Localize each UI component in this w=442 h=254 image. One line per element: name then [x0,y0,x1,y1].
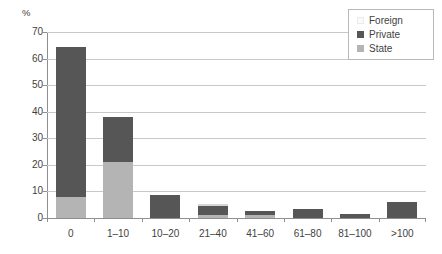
y-axis-tick-mark [43,218,47,219]
chart-legend: ForeignPrivateState [348,9,434,60]
x-axis-tick-label: 61–80 [294,228,322,239]
x-axis-tick-mark [425,218,426,222]
gridline [47,112,426,113]
y-axis-tick-mark [43,165,47,166]
legend-swatch-icon [357,45,364,52]
x-axis-tick-mark [284,218,285,222]
y-axis-tick-mark [43,112,47,113]
legend-item[interactable]: State [349,41,433,55]
legend-item-label: Foreign [369,15,403,26]
bar [103,117,133,218]
legend-item-label: Private [369,29,400,40]
x-axis-tick-label: 81–100 [338,228,371,239]
x-axis-tick-label: 41–60 [246,228,274,239]
bar-segment-private [198,206,228,215]
bar-chart: % 010203040506070 01–1010–2021–4041–6061… [0,0,442,254]
bar [293,209,323,218]
y-axis-tick-label: 50 [0,80,43,90]
legend-item[interactable]: Foreign [349,13,433,27]
bar-segment-state [103,162,133,218]
bar-segment-private [56,47,86,197]
legend-swatch-icon [357,17,364,24]
y-axis-tick-label: 40 [0,107,43,117]
x-axis-tick-label: 1–10 [107,228,129,239]
bar-segment-private [150,195,180,218]
x-axis-tick-mark [379,218,380,222]
bar [56,47,86,218]
x-axis-tick-mark [94,218,95,222]
bar-segment-foreign [198,204,228,206]
legend-swatch-icon [357,31,364,38]
y-axis-tick-mark [43,85,47,86]
gridline [47,85,426,86]
legend-item[interactable]: Private [349,27,433,41]
bar-segment-private [387,202,417,218]
y-axis-tick-mark [43,32,47,33]
bar-segment-private [245,211,275,215]
x-axis-tick-label: 21–40 [199,228,227,239]
bar [150,195,180,218]
x-axis-tick-marks [47,218,426,223]
y-axis-tick-mark [43,191,47,192]
y-axis-tick-label: 10 [0,186,43,196]
y-axis-tick-labels: 010203040506070 [0,0,43,254]
x-axis-tick-labels: 01–1010–2021–4041–6061–8081–100>100 [47,228,426,244]
bar [387,202,417,218]
x-axis-tick-mark [47,218,48,222]
x-axis-tick-mark [237,218,238,222]
bar-segment-state [56,197,86,218]
x-axis-tick-label: >100 [391,228,414,239]
y-axis-tick-mark [43,138,47,139]
x-axis-tick-label: 0 [68,228,74,239]
x-axis-tick-label: 10–20 [152,228,180,239]
x-axis-tick-mark [331,218,332,222]
y-axis-tick-mark [43,59,47,60]
x-axis-tick-mark [142,218,143,222]
bar [198,205,228,218]
bar [245,211,275,218]
x-axis-tick-mark [189,218,190,222]
bar-segment-private [103,117,133,162]
y-axis-tick-label: 30 [0,133,43,143]
y-axis-tick-label: 70 [0,27,43,37]
y-axis-tick-label: 20 [0,160,43,170]
legend-item-label: State [369,43,392,54]
y-axis-tick-label: 60 [0,54,43,64]
y-axis-tick-label: 0 [0,213,43,223]
bar-segment-private [293,209,323,218]
